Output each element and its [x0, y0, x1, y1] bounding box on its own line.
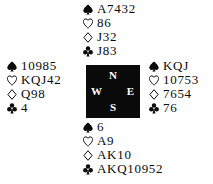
south-diamond-row: AK10 [83, 148, 163, 162]
north-spade-cards: A7432 [95, 2, 136, 16]
east-diamond-row: 7654 [149, 87, 199, 101]
east-diamond-cards: 7654 [161, 87, 192, 101]
hand-west: 10985 KQJ42 Q98 [7, 59, 61, 115]
compass-south-label: S [86, 102, 140, 113]
diamond-icon [149, 89, 161, 100]
compass-north-label: N [86, 70, 140, 81]
east-heart-cards: 10753 [161, 73, 199, 87]
heart-icon [7, 75, 19, 86]
east-spade-cards: KQJ [161, 59, 189, 73]
south-club-row: AKQ10952 [83, 162, 163, 176]
west-heart-row: KQJ42 [7, 73, 61, 87]
east-club-cards: 76 [161, 101, 177, 115]
diamond-icon [83, 150, 95, 161]
south-heart-cards: A9 [95, 134, 114, 148]
north-diamond-cards: J32 [95, 30, 117, 44]
bridge-hand-diagram: A7432 86 J32 [0, 0, 213, 184]
hand-east: KQJ 10753 7654 [149, 59, 199, 115]
west-diamond-cards: Q98 [19, 87, 46, 101]
heart-icon [83, 18, 95, 29]
spade-icon [7, 61, 19, 72]
spade-icon [83, 122, 95, 133]
club-icon [83, 164, 95, 175]
hand-north: A7432 86 J32 [83, 2, 136, 58]
west-club-row: 4 [7, 101, 61, 115]
heart-icon [83, 136, 95, 147]
club-icon [83, 46, 95, 57]
east-spade-row: KQJ [149, 59, 199, 73]
north-club-row: J83 [83, 44, 136, 58]
west-heart-cards: KQJ42 [19, 73, 61, 87]
diamond-icon [83, 32, 95, 43]
west-spade-cards: 10985 [19, 59, 57, 73]
heart-icon [149, 75, 161, 86]
west-club-cards: 4 [19, 101, 28, 115]
north-heart-cards: 86 [95, 16, 111, 30]
south-diamond-cards: AK10 [95, 148, 132, 162]
diamond-icon [7, 89, 19, 100]
south-heart-row: A9 [83, 134, 163, 148]
spade-icon [149, 61, 161, 72]
east-heart-row: 10753 [149, 73, 199, 87]
north-diamond-row: J32 [83, 30, 136, 44]
west-spade-row: 10985 [7, 59, 61, 73]
north-spade-row: A7432 [83, 2, 136, 16]
north-heart-row: 86 [83, 16, 136, 30]
hand-south: 6 A9 AK10 [83, 120, 163, 176]
south-club-cards: AKQ10952 [95, 162, 163, 176]
spade-icon [83, 4, 95, 15]
club-icon [7, 103, 19, 114]
club-icon [149, 103, 161, 114]
compass-box: N W E S [86, 65, 140, 118]
compass-east-label: E [127, 86, 134, 97]
compass-west-label: W [91, 86, 102, 97]
east-club-row: 76 [149, 101, 199, 115]
west-diamond-row: Q98 [7, 87, 61, 101]
south-spade-cards: 6 [95, 120, 104, 134]
north-club-cards: J83 [95, 44, 117, 58]
south-spade-row: 6 [83, 120, 163, 134]
